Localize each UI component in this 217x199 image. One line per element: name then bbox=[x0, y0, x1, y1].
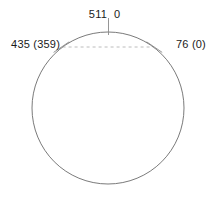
label-top-left: 511 bbox=[80, 9, 107, 20]
circular-index-diagram: 511 0 435 (359) 76 (0) bbox=[0, 0, 217, 199]
label-top-right: 0 bbox=[114, 9, 134, 20]
index-circle bbox=[32, 32, 184, 184]
diagram-canvas bbox=[0, 0, 217, 199]
label-upper-left: 435 (359) bbox=[11, 39, 60, 50]
label-upper-right: 76 (0) bbox=[176, 39, 206, 50]
